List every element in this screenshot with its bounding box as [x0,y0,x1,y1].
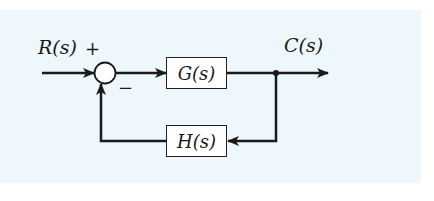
input-label: R(s) [38,38,77,57]
minus-sign: − [118,79,133,97]
block-diagram-wiring [0,0,434,201]
plus-sign: + [85,40,100,58]
feedback-block-label: H(s) [177,131,216,152]
feedback-path-to-h [228,73,276,141]
forward-block-g: G(s) [166,57,227,89]
output-label: C(s) [284,36,323,55]
feedback-path-to-junction [101,84,166,141]
feedback-block-h: H(s) [166,125,227,157]
forward-block-label: G(s) [178,63,216,84]
summing-junction [95,63,116,84]
